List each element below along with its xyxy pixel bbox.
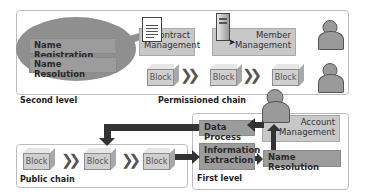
user-icon (318, 20, 342, 50)
permissioned-block: Block (272, 64, 304, 82)
chain-link-icon: ❯❯ (61, 153, 76, 168)
first-level-label: First level (197, 174, 242, 183)
permissioned-chain-label: Permissioned chain (158, 96, 246, 105)
arrow-resolution-to-user (271, 131, 276, 150)
arrow-head-up (267, 124, 281, 131)
permissioned-block: Block (210, 64, 242, 82)
chain-link-icon: ❯❯ (242, 68, 257, 83)
arrow-user-to-data (254, 122, 264, 128)
arrow-head-right (192, 150, 200, 164)
name-resolution-box-first: Name Resolution (263, 150, 341, 167)
arrow-head-left (247, 118, 255, 132)
name-registration-box: Name Registration (29, 38, 117, 54)
public-block: Block (84, 148, 116, 166)
chain-link-icon: ❯❯ (121, 153, 136, 168)
user-icon (262, 89, 288, 123)
document-icon (142, 17, 162, 42)
chain-link-icon: ❯❯ (180, 68, 195, 83)
user-icon (318, 63, 342, 93)
arrow-head-down (99, 138, 115, 146)
cursor-icon: ➤ (228, 37, 236, 47)
public-chain-label: Public chain (20, 175, 75, 184)
permissioned-block: Block (147, 64, 179, 82)
arrow-public-to-extraction (175, 154, 193, 160)
arrow-head-right (257, 153, 263, 165)
public-block: Block (23, 148, 55, 166)
arrow-data-to-public (104, 124, 199, 131)
second-level-label: Second level (20, 96, 77, 105)
information-extraction-box: Information Extraction (199, 143, 255, 170)
name-resolution-box-second: Name Resolution (29, 57, 117, 73)
public-block: Block (143, 148, 175, 166)
